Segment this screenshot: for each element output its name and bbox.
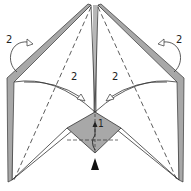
- step-label-inner-right: 2: [112, 71, 118, 82]
- step-label-center: 1: [98, 119, 104, 129]
- right-flap: [95, 5, 179, 180]
- left-flap: [12, 5, 95, 180]
- push-arrow-icon: [91, 158, 99, 170]
- origami-diagram: [0, 0, 191, 191]
- step-label-inner-left: 2: [71, 71, 77, 82]
- step-label-top-left: 2: [6, 34, 12, 45]
- left-turnover-arrowhead: [27, 39, 33, 46]
- right-turnover-arrowhead: [158, 39, 164, 46]
- step-label-top-right: 2: [176, 34, 182, 45]
